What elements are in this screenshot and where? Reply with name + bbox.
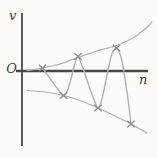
x-axis-label: n (139, 73, 147, 87)
upper-envelope-curve (27, 22, 152, 71)
origin-label: O (5, 62, 18, 76)
plot-svg (0, 0, 157, 158)
y-axis-label: v (9, 9, 16, 23)
oscillation-curve (43, 49, 132, 125)
figure: v O n (0, 0, 157, 158)
